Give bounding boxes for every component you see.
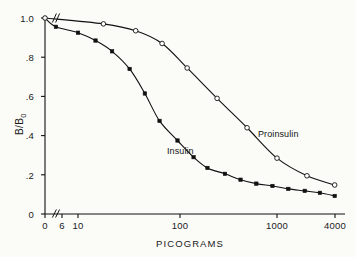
ytick-label-06: .6 xyxy=(8,91,34,102)
datapoint-proinsulin-8 xyxy=(305,173,310,178)
datapoint-insulin-16 xyxy=(303,189,306,192)
y-axis-title-main: B/B xyxy=(14,118,25,135)
datapoint-insulin-11 xyxy=(223,172,226,175)
datapoint-proinsulin-0 xyxy=(43,16,48,21)
series-insulin xyxy=(43,16,336,197)
data-series-group xyxy=(43,16,337,198)
datapoint-insulin-2 xyxy=(76,31,79,34)
datapoint-insulin-10 xyxy=(206,166,209,169)
series-label-proinsulin: Proinsulin xyxy=(258,129,299,139)
datapoint-insulin-12 xyxy=(239,178,242,181)
datapoint-insulin-7 xyxy=(158,119,161,122)
xtick-label-100: 100 xyxy=(166,220,194,231)
datapoint-proinsulin-5 xyxy=(215,96,220,101)
ytick-label-08: .8 xyxy=(8,52,34,63)
datapoint-insulin-17 xyxy=(318,191,321,194)
xtick-label-4000: 4000 xyxy=(318,220,352,231)
datapoint-proinsulin-3 xyxy=(160,41,165,46)
series-proinsulin xyxy=(43,16,337,188)
series-label-insulin: Insulin xyxy=(167,146,194,156)
datapoint-proinsulin-4 xyxy=(185,66,190,71)
datapoint-proinsulin-6 xyxy=(245,125,250,130)
datapoint-insulin-5 xyxy=(128,67,131,70)
figure-canvas: 1.0 .8 .6 .4 .2 0 0 6 10 100 1000 4000 P… xyxy=(0,0,355,257)
datapoint-insulin-13 xyxy=(255,182,258,185)
datapoint-proinsulin-2 xyxy=(133,28,138,33)
ytick-label-1: 1.0 xyxy=(8,13,34,24)
datapoint-insulin-8 xyxy=(176,139,179,142)
series-line-proinsulin xyxy=(45,18,335,185)
datapoint-insulin-1 xyxy=(54,25,57,28)
series-line-insulin xyxy=(45,18,335,196)
x-axis-title: PICOGRAMS xyxy=(120,238,260,249)
datapoint-proinsulin-1 xyxy=(101,22,106,27)
ytick-label-0: 0 xyxy=(8,209,34,220)
datapoint-proinsulin-9 xyxy=(332,183,337,188)
xtick-label-10: 10 xyxy=(67,220,89,231)
datapoint-insulin-4 xyxy=(110,50,113,53)
chart-plot-area xyxy=(0,0,355,257)
datapoint-insulin-15 xyxy=(287,187,290,190)
datapoint-insulin-3 xyxy=(94,39,97,42)
datapoint-insulin-14 xyxy=(271,184,274,187)
xtick-label-1000: 1000 xyxy=(260,220,294,231)
datapoint-proinsulin-7 xyxy=(275,156,280,161)
y-axis-title-subscript: 0 xyxy=(19,113,28,118)
y-axis-title: B/B0 xyxy=(14,113,28,135)
datapoint-insulin-18 xyxy=(333,194,336,197)
ytick-label-02: .2 xyxy=(8,170,34,181)
axes-group xyxy=(41,14,345,219)
datapoint-insulin-6 xyxy=(143,92,146,95)
